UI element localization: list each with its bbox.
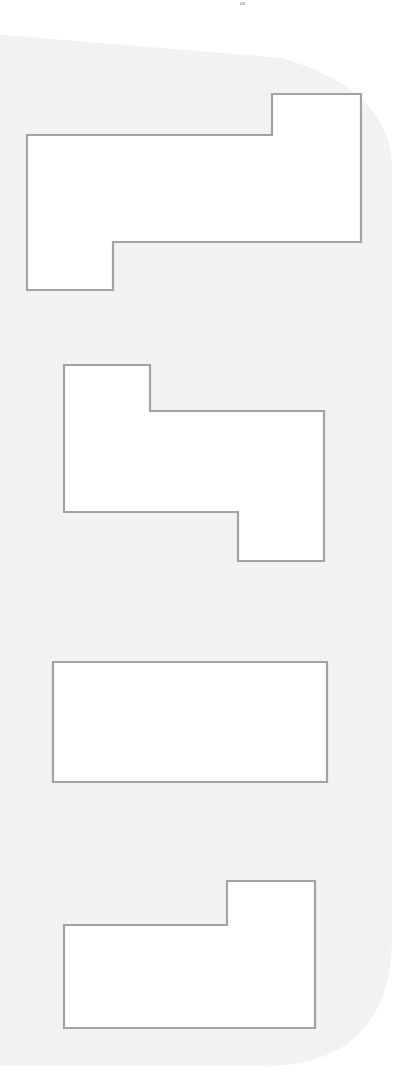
shapes-svg <box>0 0 411 1082</box>
screenshot-canvas <box>0 0 411 1082</box>
plain-rectangle[interactable] <box>53 662 327 782</box>
top-edge-speck <box>240 2 245 5</box>
